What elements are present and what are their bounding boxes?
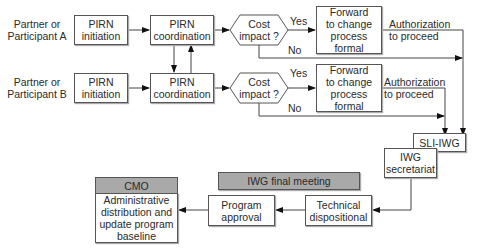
- no-label-a: No: [288, 44, 301, 56]
- cost-impact-decision-a[interactable]: Cost impact ?: [232, 15, 286, 45]
- forward-to-change-process-a[interactable]: Forward to change process formal: [316, 6, 382, 54]
- yes-label-b: Yes: [290, 67, 307, 79]
- participant-b-label: Partner or Participant B: [4, 76, 70, 100]
- cmo-body[interactable]: Administrative distribution and update p…: [95, 193, 178, 243]
- cost-impact-decision-b[interactable]: Cost impact ?: [232, 73, 286, 103]
- no-label-b: No: [288, 102, 301, 114]
- pirn-initiation-b[interactable]: PIRN initiation: [74, 73, 128, 103]
- yes-label-a: Yes: [290, 15, 307, 27]
- authorization-label-a: Authorization to proceed: [389, 18, 450, 42]
- forward-to-change-process-b[interactable]: Forward to change process formal: [316, 64, 382, 112]
- pirn-coordination-a[interactable]: PIRN coordination: [150, 15, 214, 45]
- pirn-initiation-a[interactable]: PIRN initiation: [74, 15, 128, 45]
- participant-a-label: Partner or Participant A: [4, 18, 70, 42]
- cmo-header: CMO: [95, 177, 178, 194]
- pirn-coordination-b[interactable]: PIRN coordination: [150, 73, 214, 103]
- technical-dispositional-box[interactable]: Technical dispositional: [305, 195, 372, 226]
- iwg-secretariat-box[interactable]: IWG secretariat: [384, 148, 437, 178]
- program-approval-box[interactable]: Program approval: [208, 195, 275, 226]
- iwg-final-meeting-bar: IWG final meeting: [218, 172, 360, 190]
- authorization-label-b: Authorization to proceed: [384, 76, 445, 100]
